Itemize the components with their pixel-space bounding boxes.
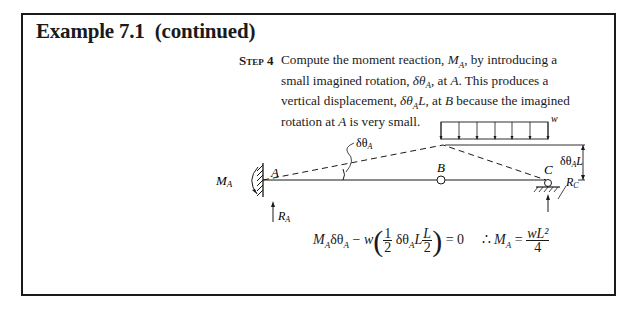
beam-diagram: MA A δθA B C RA RC — [0, 0, 636, 319]
deflected-shape — [263, 145, 546, 180]
displacement-label: δθAL — [560, 154, 583, 169]
moment-label: MA — [215, 173, 233, 189]
reaction-a-arrow-icon — [271, 201, 275, 222]
virtual-work-equation: MAδθA − w(12 δθALL2) = 0 ∴ MA = wL²4 — [313, 227, 549, 254]
result-fraction: wL²4 — [526, 227, 549, 254]
rotation-angle-arc — [343, 169, 345, 180]
l-over-2-fraction: L2 — [422, 227, 432, 254]
rotation-label: δθA — [356, 136, 372, 151]
reaction-c-label: RC — [565, 175, 579, 190]
reaction-a-label: RA — [277, 209, 290, 224]
point-c-label: C — [544, 162, 553, 177]
half-fraction: 12 — [383, 227, 392, 254]
load-label: w — [551, 113, 558, 124]
rotation-leader — [346, 143, 354, 172]
hinge-b-icon — [437, 176, 445, 184]
fixed-support-icon — [257, 163, 263, 197]
reaction-c-arrow-icon — [546, 194, 550, 212]
distributed-load-icon — [440, 122, 550, 140]
roller-support-icon — [534, 180, 566, 200]
point-b-label: B — [437, 160, 445, 175]
